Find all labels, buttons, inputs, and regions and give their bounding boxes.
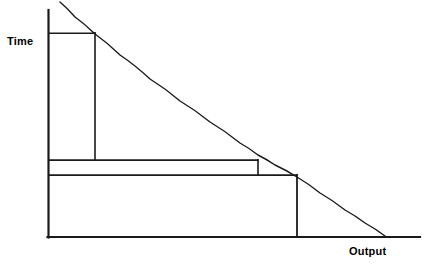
chart-canvas: Time Output	[0, 0, 430, 265]
y-axis-label: Time	[7, 35, 33, 47]
bottom-widest-rectangle	[258, 174, 298, 238]
middle-wide-rectangle	[48, 159, 259, 176]
demand-curve	[60, 2, 385, 236]
tall-narrow-rectangle	[48, 32, 96, 161]
x-axis-label: Output	[349, 245, 386, 257]
chart-plot-area	[0, 0, 430, 265]
